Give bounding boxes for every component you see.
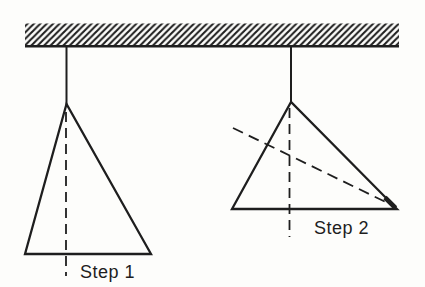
step1-label: Step 1 xyxy=(80,262,135,282)
step2-corner-ink-thickening xyxy=(385,198,396,209)
step1-triangle xyxy=(25,104,151,254)
diagram-svg: Step 1 Step 2 xyxy=(0,0,425,287)
step2-previous-plumb-dashed-line xyxy=(233,128,396,207)
step2-triangle xyxy=(232,102,397,209)
ceiling-hatched-bar xyxy=(25,24,399,46)
step2-label: Step 2 xyxy=(314,218,369,238)
plumb-line-experiment-figure: Step 1 Step 2 xyxy=(0,0,425,287)
